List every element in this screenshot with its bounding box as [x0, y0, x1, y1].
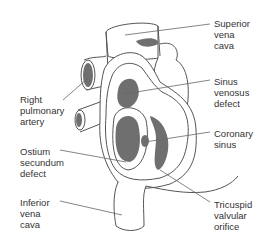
- label-right-pulmonary-artery: Right pulmonary artery: [20, 94, 64, 127]
- label-inferior-vena-cava: Inferior vena cava: [20, 197, 50, 230]
- pulmonary-artery-lumen: [83, 63, 93, 87]
- label-coronary-sinus: Coronary sinus: [214, 128, 253, 150]
- ostium-secundum-defect-fill: [116, 116, 140, 162]
- label-tricuspid-valvular-orifice: Tricuspid valvular orifice: [214, 199, 252, 232]
- heart-diagram: Superior vena cava Right pulmonary arter…: [0, 0, 274, 246]
- pulmonary-vein-lumen: [76, 113, 82, 127]
- label-sinus-venosus-defect: Sinus venosus defect: [214, 76, 249, 109]
- coronary-sinus-fill: [141, 135, 149, 147]
- leader-right-pulmonary-artery: [63, 78, 88, 100]
- label-ostium-secundum-defect: Ostium secundum defect: [20, 146, 64, 179]
- leader-tricuspid-valvular-orifice: [160, 170, 210, 202]
- label-superior-vena-cava: Superior vena cava: [214, 18, 250, 51]
- leader-inferior-vena-cava: [60, 201, 122, 215]
